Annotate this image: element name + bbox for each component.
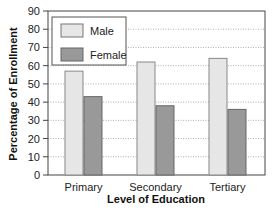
x-tick-label: Tertiary [209,181,246,193]
x-tick-label: Secondary [129,181,182,193]
bar-female-primary [84,97,102,175]
y-tick-label: 0 [34,169,40,181]
x-axis-title: Level of Education [107,193,205,205]
y-tick-label: 50 [28,78,40,90]
x-axis-ticks: PrimarySecondaryTertiary [65,181,246,193]
legend-swatch-female [61,48,83,61]
y-tick-label: 80 [28,23,40,35]
y-tick-label: 70 [28,41,40,53]
y-tick-label: 90 [28,5,40,17]
legend-label-female: Female [90,49,127,61]
legend-swatch-male [61,24,83,37]
bars [65,58,246,175]
bar-chart: 0102030405060708090 PrimarySecondaryTert… [0,0,274,215]
bar-male-secondary [137,62,155,175]
y-axis-title: Percentage of Enrollment [7,27,19,161]
x-tick-label: Primary [65,181,103,193]
bar-female-secondary [156,106,174,175]
y-tick-label: 30 [28,114,40,126]
bar-male-primary [65,71,83,175]
bar-female-tertiary [228,109,246,175]
y-tick-label: 20 [28,133,40,145]
y-tick-label: 40 [28,96,40,108]
y-axis-ticks: 0102030405060708090 [28,5,48,181]
bar-male-tertiary [209,58,227,175]
y-tick-label: 10 [28,151,40,163]
y-tick-label: 60 [28,60,40,72]
legend-label-male: Male [90,25,114,37]
legend: Male Female [52,17,127,65]
